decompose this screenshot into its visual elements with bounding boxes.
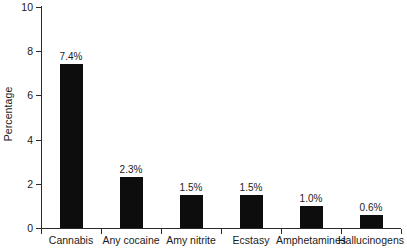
x-category-label: Ecstasy	[233, 234, 270, 246]
y-tick-mark	[36, 7, 41, 8]
bar	[240, 195, 263, 228]
x-category-label: Amy nitrite	[166, 234, 216, 246]
bar	[60, 64, 83, 228]
y-tick-mark	[36, 95, 41, 96]
y-tick-label: 10	[9, 1, 33, 13]
y-tick-mark	[36, 140, 41, 141]
bar-value-label: 2.3%	[120, 164, 143, 175]
bar-chart: Percentage 0246810 7.4%2.3%1.5%1.5%1.0%0…	[0, 0, 407, 251]
x-tick-mark	[221, 229, 222, 234]
bar-value-label: 0.6%	[360, 202, 383, 213]
y-tick-label: 4	[9, 134, 33, 146]
bar	[120, 177, 143, 228]
y-tick-mark	[36, 51, 41, 52]
x-category-label: Amphetamines	[276, 234, 346, 246]
bar	[300, 206, 323, 228]
y-axis-line	[41, 6, 42, 229]
bar-value-label: 1.5%	[240, 182, 263, 193]
x-category-label: Any cocaine	[102, 234, 159, 246]
bar-value-label: 7.4%	[60, 51, 83, 62]
x-tick-mark	[41, 229, 42, 234]
y-tick-mark	[36, 184, 41, 185]
bar-value-label: 1.0%	[300, 193, 323, 204]
y-tick-label: 8	[9, 45, 33, 57]
y-tick-label: 2	[9, 178, 33, 190]
x-tick-mark	[161, 229, 162, 234]
bar	[180, 195, 203, 228]
y-axis-title: Percentage	[0, 0, 16, 228]
x-category-label: Cannabis	[49, 234, 93, 246]
y-tick-label: 0	[9, 222, 33, 234]
bar	[360, 215, 383, 228]
y-tick-label: 6	[9, 89, 33, 101]
x-category-label: Hallucinogens	[338, 234, 404, 246]
bar-value-label: 1.5%	[180, 182, 203, 193]
